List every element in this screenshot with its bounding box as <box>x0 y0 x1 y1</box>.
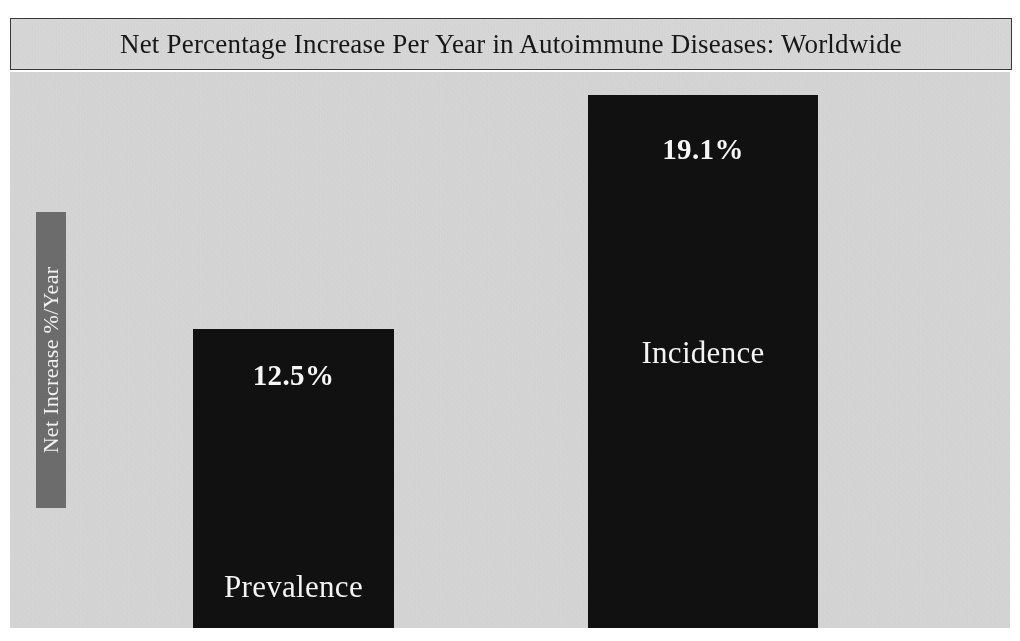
y-axis-label: Net Increase %/Year <box>38 267 64 454</box>
plot-texture-highlight <box>10 72 1010 628</box>
chart-title-box: Net Percentage Increase Per Year in Auto… <box>10 18 1012 70</box>
bar-category-label-prevalence: Prevalence <box>193 569 394 605</box>
plot-area: 12.5% Prevalence 19.1% Incidence <box>10 72 1010 628</box>
bar-incidence[interactable]: 19.1% Incidence <box>588 95 818 628</box>
bar-value-label-incidence: 19.1% <box>588 133 818 166</box>
plot-texture-overlay <box>10 72 1010 628</box>
bar-chart-figure: Net Percentage Increase Per Year in Auto… <box>0 0 1020 641</box>
bar-value-label-prevalence: 12.5% <box>193 359 394 392</box>
bar-category-label-incidence: Incidence <box>588 335 818 371</box>
y-axis-label-box: Net Increase %/Year <box>36 212 66 508</box>
chart-title: Net Percentage Increase Per Year in Auto… <box>120 29 902 60</box>
bar-prevalence[interactable]: 12.5% Prevalence <box>193 329 394 628</box>
